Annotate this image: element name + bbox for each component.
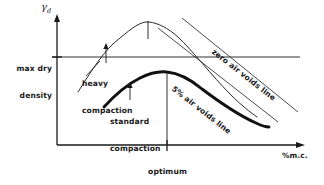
compaction-curve-figure: γd max dry density heavy compaction stan… xyxy=(0,0,324,185)
heavy-compaction-line1: heavy xyxy=(82,80,133,89)
zero-air-voids-line xyxy=(182,18,298,112)
y-axis-arrowhead xyxy=(54,14,60,22)
heavy-compaction-arrowhead xyxy=(103,43,108,49)
optimum-moisture-content-label: optimum moisture content xyxy=(130,150,205,185)
optimum-line1: optimum xyxy=(130,168,205,177)
max-dry-density-label: max dry density xyxy=(2,47,52,119)
y-axis-label-subscript: d xyxy=(47,7,51,15)
y-axis-label: γd xyxy=(41,1,51,16)
x-axis-arrowhead xyxy=(296,142,305,148)
max-dry-density-line2: density xyxy=(2,92,52,101)
max-dry-density-line1: max dry xyxy=(2,65,52,74)
x-axis-label: %m.c. xyxy=(282,152,308,161)
standard-compaction-line1: standard xyxy=(110,118,161,127)
